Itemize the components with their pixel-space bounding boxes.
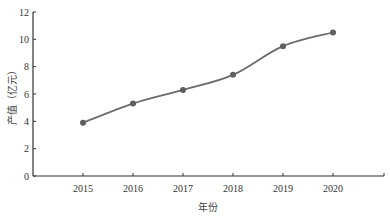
- data-point-marker: [330, 30, 336, 36]
- data-point-marker: [80, 120, 86, 126]
- x-tick-label: 2020: [323, 183, 343, 194]
- y-tick-label: 0: [24, 171, 29, 182]
- x-tick-label: 2019: [273, 183, 293, 194]
- series-line: [80, 30, 336, 126]
- line-chart: 024681012 201520162017201820192020 年份 产值…: [0, 0, 390, 216]
- x-tick-label: 2018: [223, 183, 243, 194]
- y-axis: 024681012: [19, 7, 36, 182]
- x-tick-label: 2017: [173, 183, 193, 194]
- x-axis-title: 年份: [198, 201, 218, 213]
- x-tick-label: 2015: [73, 183, 93, 194]
- y-tick-label: 12: [19, 7, 29, 18]
- data-point-marker: [130, 101, 136, 107]
- data-point-marker: [180, 87, 186, 93]
- y-tick-label: 10: [19, 34, 29, 45]
- y-tick-label: 6: [24, 89, 29, 100]
- y-tick-label: 2: [24, 143, 29, 154]
- x-axis: 201520162017201820192020: [33, 173, 384, 194]
- data-point-marker: [280, 43, 286, 49]
- y-axis-title: 产值（亿元）: [6, 65, 18, 125]
- y-tick-label: 4: [24, 116, 29, 127]
- x-tick-label: 2016: [123, 183, 143, 194]
- y-tick-label: 8: [24, 61, 29, 72]
- data-point-marker: [230, 72, 236, 78]
